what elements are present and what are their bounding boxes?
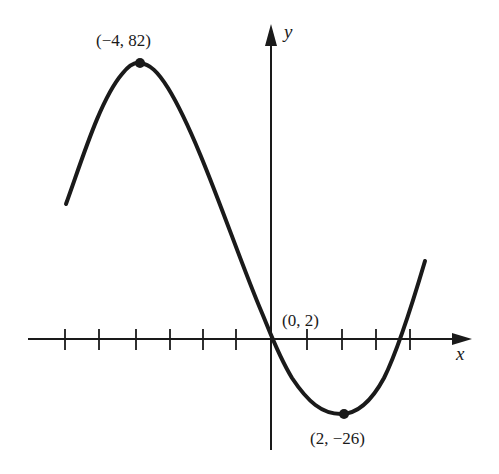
y-axis-label: y (282, 21, 293, 42)
y-axis-arrow-icon (265, 24, 277, 46)
max-point-label: (−4, 82) (96, 31, 151, 50)
min-point-label: (2, −26) (310, 429, 365, 448)
function-curve (66, 63, 425, 414)
x-axis-label: x (455, 343, 465, 364)
x-axis (28, 333, 472, 345)
min-point-dot (339, 409, 349, 419)
max-point-dot (135, 58, 145, 68)
y-axis (265, 24, 277, 450)
function-graph: (−4, 82) (0, 2) (2, −26) x y (0, 0, 499, 474)
intercept-point-label: (0, 2) (282, 311, 319, 330)
